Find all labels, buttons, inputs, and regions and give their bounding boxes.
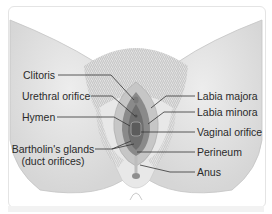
label-hymen: Hymen (22, 111, 55, 123)
bottom-strip (8, 206, 264, 212)
clitoris-shape (134, 97, 139, 104)
label-bartholins-glands: Bartholin's glands (duct orifices) (10, 143, 96, 167)
label-bartholins-line2: (duct orifices) (10, 155, 96, 167)
label-urethral-orifice: Urethral orifice (22, 90, 90, 102)
label-vaginal-orifice: Vaginal orifice (197, 126, 262, 138)
label-labia-minora: Labia minora (197, 106, 258, 118)
vaginal-orifice-shape (131, 122, 141, 136)
anus-shape (132, 173, 140, 179)
gluteal-crease (130, 193, 142, 200)
label-labia-majora: Labia majora (197, 90, 258, 102)
label-anus: Anus (197, 166, 221, 178)
label-clitoris: Clitoris (23, 69, 55, 81)
label-bartholins-line1: Bartholin's glands (10, 143, 96, 155)
label-perineum: Perineum (197, 146, 242, 158)
anatomy-diagram: Clitoris Urethral orifice Hymen Bartholi… (0, 0, 272, 214)
